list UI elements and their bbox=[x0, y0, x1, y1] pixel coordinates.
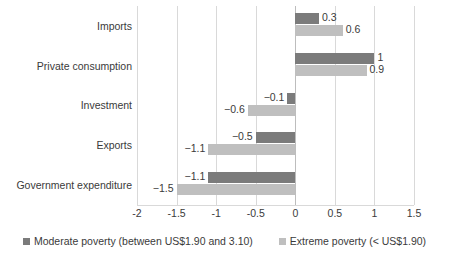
y-axis-label-slot: Exports bbox=[0, 125, 132, 165]
bar-value-label-moderate: 1 bbox=[377, 52, 383, 63]
bar-value-label-extreme: −1.5 bbox=[153, 183, 174, 194]
y-axis-tick-label: Imports bbox=[0, 20, 132, 32]
x-axis-tick-label: 1 bbox=[371, 207, 377, 219]
bar-group: 1 0.9 bbox=[137, 46, 414, 86]
y-axis-tick-label: Exports bbox=[0, 139, 132, 151]
bar-value-label-moderate: −0.1 bbox=[264, 92, 285, 103]
y-axis-tick-label: Private consumption bbox=[0, 60, 132, 72]
bar-group: −1.1 −1.5 bbox=[137, 165, 414, 205]
bar-extreme bbox=[295, 25, 342, 36]
legend-swatch-icon bbox=[279, 238, 286, 245]
legend-item-moderate-poverty[interactable]: Moderate poverty (between US$1.90 and 3.… bbox=[23, 235, 253, 247]
bar-extreme bbox=[295, 65, 366, 76]
y-axis-category-labels: Imports Private consumption Investment E… bbox=[0, 6, 132, 205]
chart-legend: Moderate poverty (between US$1.90 and 3.… bbox=[0, 232, 449, 250]
y-axis-tick-label: Investment bbox=[0, 99, 132, 111]
bar-value-label-extreme: −0.6 bbox=[224, 104, 245, 115]
x-axis-tick-label: -1 bbox=[211, 207, 220, 219]
y-axis-label-slot: Investment bbox=[0, 86, 132, 126]
bar-group: 0.3 0.6 bbox=[137, 6, 414, 46]
bar-moderate bbox=[256, 132, 296, 143]
x-axis-tick-label: -1.5 bbox=[168, 207, 186, 219]
bar-moderate bbox=[295, 13, 319, 24]
x-axis-tick-label: -0.5 bbox=[247, 207, 265, 219]
bar-chart: Imports Private consumption Investment E… bbox=[0, 0, 449, 260]
x-axis-tick-labels: -2 -1.5 -1 -0.5 0 0.5 1 1.5 bbox=[137, 207, 414, 223]
x-axis-tick-label: 0.5 bbox=[328, 207, 343, 219]
bar-moderate bbox=[208, 172, 295, 183]
bar-value-label-extreme: 0.6 bbox=[346, 24, 361, 35]
bar-moderate bbox=[295, 53, 374, 64]
y-axis-label-slot: Government expenditure bbox=[0, 165, 132, 205]
y-axis-label-slot: Private consumption bbox=[0, 46, 132, 86]
legend-swatch-icon bbox=[23, 238, 30, 245]
bar-value-label-moderate: −0.5 bbox=[232, 131, 253, 142]
plot-area: 0.3 0.6 1 0.9 −0.1 −0.6 −0.5 −1.1 −1.1 −… bbox=[137, 6, 414, 205]
bar-extreme bbox=[248, 105, 295, 116]
bar-value-label-moderate: −1.1 bbox=[185, 171, 206, 182]
x-axis-tick-label: 1.5 bbox=[407, 207, 422, 219]
legend-item-extreme-poverty[interactable]: Extreme poverty (< US$1.90) bbox=[279, 235, 426, 247]
x-axis-line bbox=[137, 205, 414, 206]
bar-moderate bbox=[287, 93, 295, 104]
x-axis-tick-label: -2 bbox=[132, 207, 141, 219]
bar-group: −0.5 −1.1 bbox=[137, 125, 414, 165]
legend-label: Extreme poverty (< US$1.90) bbox=[290, 235, 426, 247]
bar-value-label-extreme: 0.9 bbox=[370, 64, 385, 75]
y-axis-tick-label: Government expenditure bbox=[0, 179, 132, 191]
x-axis-tick-label: 0 bbox=[292, 207, 298, 219]
legend-label: Moderate poverty (between US$1.90 and 3.… bbox=[34, 235, 253, 247]
bar-extreme bbox=[177, 184, 296, 195]
bar-value-label-moderate: 0.3 bbox=[322, 12, 337, 23]
bar-group: −0.1 −0.6 bbox=[137, 86, 414, 126]
y-axis-label-slot: Imports bbox=[0, 6, 132, 46]
bar-extreme bbox=[208, 144, 295, 155]
bar-value-label-extreme: −1.1 bbox=[185, 143, 206, 154]
gridline bbox=[414, 6, 415, 205]
